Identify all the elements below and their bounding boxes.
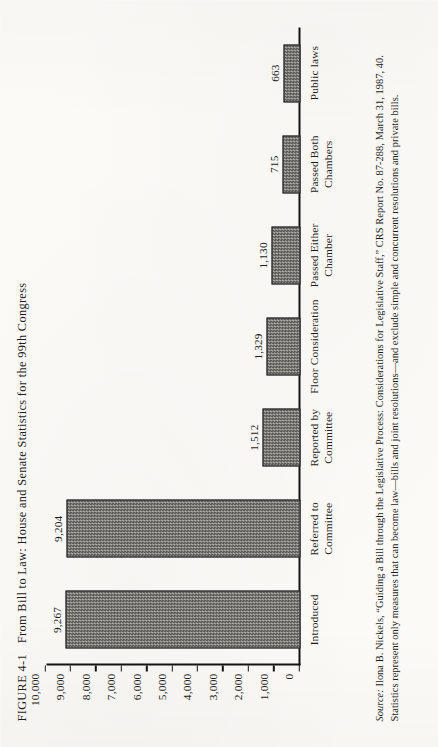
bar-group: 1,130Passed Either Chamber <box>46 209 300 300</box>
bar-value-label: 1,329 <box>251 333 263 359</box>
bar-group: 1,512Reported by Committee <box>46 392 300 483</box>
book-page: FIGURE 4-1From Bill to Law: House and Se… <box>0 0 438 747</box>
figure-caption: FIGURE 4-1From Bill to Law: House and Se… <box>14 282 29 721</box>
y-axis-tick-mark <box>146 665 147 671</box>
x-axis-category-label: Passed Either Chamber <box>307 207 335 303</box>
y-axis-tick-mark <box>69 665 70 671</box>
source-note: Source: Ilona B. Nickels, “Guiding a Bil… <box>372 16 402 721</box>
y-axis-tick-label: 6,000 <box>130 665 142 700</box>
bar: 1,329 <box>266 317 300 375</box>
y-axis-tick-mark <box>120 665 121 671</box>
bar-group: 663Public laws <box>46 27 300 118</box>
bar: 715 <box>282 135 300 193</box>
y-axis-tick-label: 0 <box>282 665 294 679</box>
y-axis-tick-mark <box>222 665 223 671</box>
bar-group: 715Passed Both Chambers <box>46 118 300 209</box>
y-axis-tick-mark <box>298 665 299 671</box>
bar-chart: 9,267Introduced9,204Referred to Committe… <box>44 21 344 721</box>
y-axis-tick-label: 10,000 <box>28 665 40 706</box>
y-axis-tick-label: 5,000 <box>155 665 167 700</box>
bar-value-label: 1,130 <box>256 242 268 268</box>
scanned-page-frame: FIGURE 4-1From Bill to Law: House and Se… <box>0 0 438 747</box>
page-title: From Bill to Law: House and Senate Stati… <box>14 282 28 643</box>
bar: 1,130 <box>271 226 300 284</box>
bar: 1,512 <box>262 408 300 466</box>
y-axis-tick-label: 2,000 <box>231 665 243 700</box>
bar-value-label: 9,267 <box>50 606 62 632</box>
y-axis-tick-mark <box>247 665 248 671</box>
figure-number: FIGURE 4-1 <box>14 654 28 721</box>
y-axis-tick-label: 9,000 <box>53 665 65 700</box>
source-text: Ilona B. Nickels, “Guiding a Bill throug… <box>373 55 399 721</box>
bar-group: 9,267Introduced <box>46 574 300 665</box>
bar: 9,267 <box>65 590 300 648</box>
bar: 9,204 <box>66 499 300 557</box>
y-axis-tick-label: 1,000 <box>257 665 269 700</box>
y-axis-tick-mark <box>44 665 45 671</box>
bar-series: 9,267Introduced9,204Referred to Committe… <box>46 27 300 665</box>
source-label: Source: <box>373 689 384 721</box>
y-axis-tick-mark <box>95 665 96 671</box>
bar-group: 1,329Floor Consideration <box>46 300 300 391</box>
y-axis-tick-mark <box>273 665 274 671</box>
x-axis-category-label: Introduced <box>307 571 321 667</box>
y-axis-tick-mark <box>196 665 197 671</box>
y-axis-tick-label: 8,000 <box>79 665 91 700</box>
x-axis-category-label: Referred to Committee <box>307 480 335 576</box>
plot-area: 9,267Introduced9,204Referred to Committe… <box>46 27 300 665</box>
bar-value-label: 1,512 <box>247 424 259 450</box>
x-axis-category-label: Floor Consideration <box>307 298 321 394</box>
y-axis-tick-label: 7,000 <box>104 665 116 700</box>
bar: 663 <box>283 44 300 102</box>
x-axis-category-label: Passed Both Chambers <box>307 116 335 212</box>
y-axis-tick-mark <box>171 665 172 671</box>
x-axis-category-label: Public laws <box>307 25 321 121</box>
y-axis-tick-label: 3,000 <box>206 665 218 700</box>
x-axis-category-label: Reported by Committee <box>307 389 335 485</box>
y-axis-tick-label: 4,000 <box>180 665 192 700</box>
bar-value-label: 9,204 <box>51 515 63 541</box>
bar-value-label: 663 <box>268 64 280 81</box>
bar-value-label: 715 <box>267 155 279 172</box>
bar-group: 9,204Referred to Committee <box>46 483 300 574</box>
